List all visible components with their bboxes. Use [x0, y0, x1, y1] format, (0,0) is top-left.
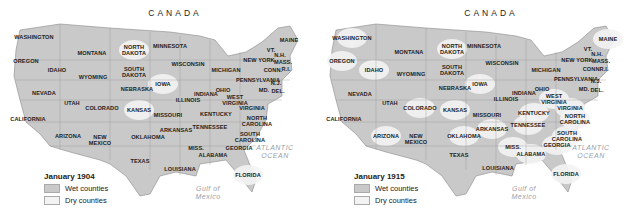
state-label: DEL. — [271, 88, 284, 94]
state-label: GEORGIA — [543, 142, 570, 148]
state-label: OREGON — [329, 58, 354, 64]
dry-swatch — [354, 196, 370, 205]
legend-title: January 1904 — [44, 172, 108, 181]
state-label: ARKANSAS — [476, 126, 509, 132]
state-label: MICHIGAN — [211, 67, 240, 73]
state-label: NORTH CAROLINA — [240, 115, 274, 127]
state-label: N.J. — [591, 78, 602, 84]
legend: January 1915Wet countiesDry counties — [354, 172, 418, 208]
state-label: NORTH DAKOTA — [117, 44, 151, 56]
state-label: UTAH — [64, 100, 80, 106]
state-label: UTAH — [382, 100, 398, 106]
state-label: IOWA — [155, 81, 170, 87]
state-label: TENNESSEE — [193, 124, 228, 130]
legend-dry: Dry counties — [354, 196, 418, 205]
state-label: N.H. — [591, 51, 603, 57]
canada-label: CANADA — [464, 8, 517, 18]
state-label: OHIO — [535, 86, 550, 92]
legend-wet-label: Wet counties — [65, 184, 108, 193]
legend: January 1904Wet countiesDry counties — [44, 172, 108, 208]
state-label: OHIO — [216, 87, 231, 93]
state-label: CALIFORNIA — [10, 116, 46, 122]
state-label: SOUTH DAKOTA — [435, 64, 469, 76]
state-label: ARIZONA — [373, 133, 399, 139]
legend-dry-label: Dry counties — [65, 196, 107, 205]
state-label: LOUISIANA — [164, 166, 196, 172]
state-label: VIRGINIA — [557, 105, 583, 111]
state-label: IDAHO — [365, 67, 384, 73]
state-label: KENTUCKY — [518, 110, 550, 116]
state-label: WASHINGTON — [14, 34, 53, 40]
state-label: R.I. — [599, 66, 608, 72]
state-label: NEBRASKA — [439, 85, 472, 91]
state-label: WISCONSIN — [485, 60, 518, 66]
state-label: NEBRASKA — [121, 86, 154, 92]
state-label: MD. — [259, 87, 270, 93]
state-label: ALABAMA — [517, 151, 546, 157]
state-label: WASHINGTON — [332, 35, 371, 41]
canada-label: CANADA — [148, 8, 201, 18]
state-label: MICHIGAN — [531, 67, 560, 73]
state-label: NEW YORK — [242, 57, 276, 63]
state-label: SOUTH DAKOTA — [117, 66, 151, 78]
legend-wet: Wet counties — [44, 184, 108, 193]
state-label: COLORADO — [403, 105, 436, 111]
state-label: FLORIDA — [553, 171, 579, 177]
state-label: IDAHO — [48, 67, 67, 73]
state-label: NEW MEXICO — [83, 134, 117, 146]
state-label: OKLAHOMA — [447, 133, 481, 139]
state-label: TENNESSEE — [511, 122, 546, 128]
state-label: KENTUCKY — [200, 111, 232, 117]
state-label: OKLAHOMA — [131, 134, 165, 140]
state-label: N.J. — [271, 80, 282, 86]
state-label: KANSAS — [443, 107, 467, 113]
state-label: IOWA — [472, 81, 487, 87]
state-label: DEL. — [590, 87, 603, 93]
state-label: MD. — [579, 86, 590, 92]
gulf-of-mexico-label: Gulf of Mexico — [193, 185, 223, 201]
state-label: MISSOURI — [473, 112, 501, 118]
state-label: ILLINOIS — [176, 97, 200, 103]
state-label: SOUTH CAROLINA — [550, 130, 584, 142]
state-label: MISSOURI — [154, 112, 182, 118]
state-label: COLORADO — [85, 105, 118, 111]
state-label: GEORGIA — [225, 145, 252, 151]
state-label: INDIANA — [194, 91, 218, 97]
state-label: CALIFORNIA — [326, 116, 362, 122]
state-label: SOUTH CAROLINA — [233, 131, 267, 143]
state-label: FLORIDA — [235, 172, 261, 178]
state-label: R.I. — [281, 66, 290, 72]
state-label: MASS. — [592, 58, 610, 64]
map-1904: CANADAATLANTIC OCEANGulf of MexicoWASHIN… — [0, 0, 310, 220]
state-label: MASS. — [274, 59, 292, 65]
legend-wet: Wet counties — [354, 184, 418, 193]
state-label: MISS. — [505, 144, 521, 150]
state-label: LOUISIANA — [482, 165, 514, 171]
state-label: MINNESOTA — [467, 43, 501, 49]
state-label: NEW MEXICO — [399, 133, 433, 145]
wet-swatch — [354, 184, 370, 193]
state-label: N.H. — [274, 52, 286, 58]
state-label: WISCONSIN — [171, 61, 204, 67]
state-label: KANSAS — [127, 107, 151, 113]
gulf-of-mexico-label: Gulf of Mexico — [509, 185, 539, 201]
state-label: INDIANA — [512, 90, 536, 96]
state-label: MONTANA — [395, 49, 424, 55]
legend-dry: Dry counties — [44, 196, 108, 205]
map-1915: CANADAATLANTIC OCEANGulf of MexicoWASHIN… — [316, 0, 626, 220]
state-label: OREGON — [13, 58, 38, 64]
state-label: MAINE — [599, 36, 618, 42]
state-label: ILLINOIS — [494, 96, 518, 102]
state-label: MISS. — [188, 145, 204, 151]
state-label: WEST VIRGINIA — [537, 93, 571, 105]
state-label: TEXAS — [449, 152, 468, 158]
state-label: NORTH DAKOTA — [435, 43, 469, 55]
state-label: VIRGINIA — [239, 105, 265, 111]
wet-swatch — [44, 184, 60, 193]
state-label: NEVADA — [32, 90, 56, 96]
state-label: MAINE — [280, 37, 299, 43]
legend-wet-label: Wet counties — [375, 184, 418, 193]
state-label: MINNESOTA — [153, 43, 187, 49]
state-label: WYOMING — [79, 74, 108, 80]
atlantic-ocean-label: ATLANTIC OCEAN — [571, 144, 611, 160]
